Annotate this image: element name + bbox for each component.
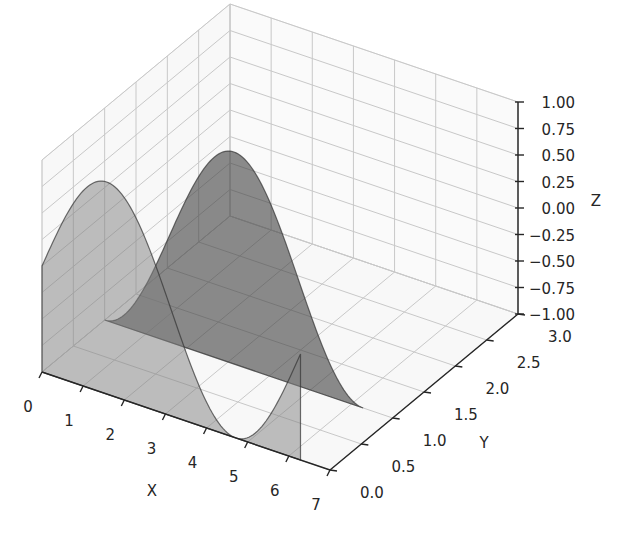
y-tick-label: 2.5 [517, 354, 541, 372]
x-axis-label: X [147, 482, 157, 500]
z-axis-label: Z [591, 192, 601, 210]
x-tick-label: 1 [64, 412, 74, 430]
x-tick-label: 4 [188, 454, 198, 472]
z-tick-label: −0.75 [529, 280, 575, 298]
x-tick [162, 414, 165, 420]
z-tick-label: 0.50 [542, 147, 575, 165]
z-tick-label: 0.75 [542, 121, 575, 139]
x-tick [80, 386, 83, 392]
x-tick [286, 456, 289, 462]
y-tick-label: 3.0 [548, 328, 572, 346]
z-tick-label: 1.00 [542, 94, 575, 112]
y-tick [330, 470, 337, 471]
z-tick-label: −0.25 [529, 227, 575, 245]
x-tick-label: 0 [23, 398, 33, 416]
y-axis-label: Y [478, 434, 489, 452]
y-tick-label: 2.0 [485, 380, 509, 398]
y-tick [487, 340, 494, 341]
x-tick [121, 400, 124, 406]
z-tick-label: −0.50 [529, 253, 575, 271]
x-tick-label: 7 [311, 496, 321, 514]
y-tick-label: 0.0 [360, 484, 384, 502]
x-tick-label: 5 [229, 468, 239, 486]
x-tick [245, 442, 248, 448]
y-tick [361, 444, 368, 445]
x-tick [39, 372, 42, 378]
x-tick [204, 428, 207, 434]
x-tick-label: 2 [106, 426, 116, 444]
y-tick-label: 1.0 [423, 432, 447, 450]
x-tick-label: 6 [270, 482, 280, 500]
z-tick-label: 0.25 [542, 174, 575, 192]
x-tick [327, 470, 330, 476]
y-tick-label: 0.5 [391, 458, 415, 476]
x-tick-label: 3 [147, 440, 157, 458]
y-tick-label: 1.5 [454, 406, 478, 424]
chart-3d: 012345670.00.51.01.52.02.53.0−1.00−0.75−… [0, 0, 630, 541]
y-tick [455, 366, 462, 367]
y-tick [424, 392, 431, 393]
z-tick-label: −1.00 [529, 306, 575, 324]
z-tick-label: 0.00 [542, 200, 575, 218]
y-tick [393, 418, 400, 419]
